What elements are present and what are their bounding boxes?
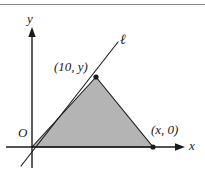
y-axis-label: y xyxy=(27,12,33,25)
line-ell-label: ℓ xyxy=(120,33,126,47)
y-axis-arrowhead-icon xyxy=(28,27,35,37)
x-axis-label: x xyxy=(189,139,195,152)
shaded-triangle xyxy=(32,77,153,147)
point-marker-apex xyxy=(93,74,98,79)
point-label-apex: (10, y) xyxy=(54,60,88,73)
point-label-x-intercept: (x, 0) xyxy=(151,123,178,136)
x-axis-arrowhead-icon xyxy=(175,143,185,150)
point-marker-x-intercept xyxy=(150,144,155,149)
figure-container: (10, y) (x, 0) O y x ℓ xyxy=(0,0,205,173)
origin-label: O xyxy=(18,126,27,139)
